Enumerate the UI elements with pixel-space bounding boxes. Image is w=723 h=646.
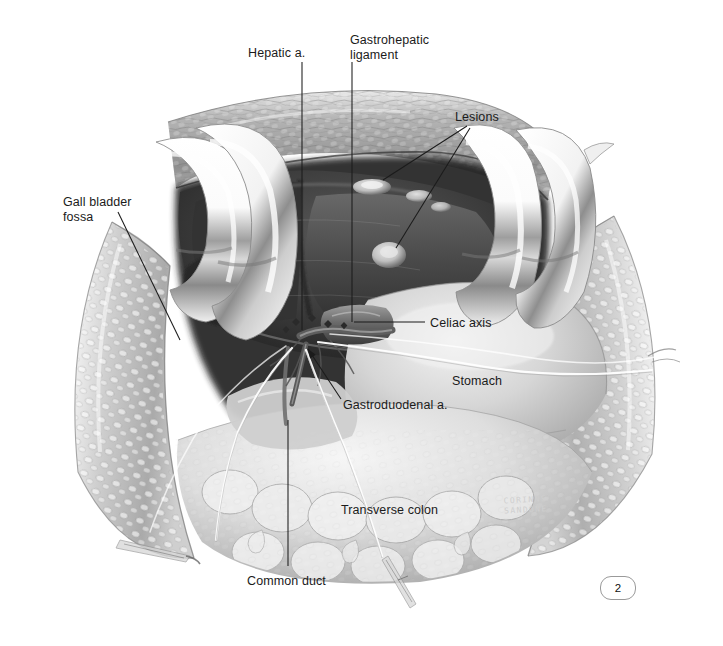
label-celiac-axis: Celiac axis: [430, 316, 492, 331]
illustration-canvas: [0, 0, 723, 646]
label-lesions: Lesions: [455, 110, 499, 125]
label-gall-bladder-fossa: Gall bladder fossa: [63, 195, 132, 224]
surgical-illustration-figure: Hepatic a. Gastrohepatic ligament Lesion…: [0, 0, 723, 646]
label-stomach: Stomach: [452, 374, 502, 389]
label-transverse-colon: Transverse colon: [341, 503, 438, 518]
label-gastroduodenal-artery: Gastroduodenal a.: [343, 398, 448, 413]
artist-signature: CORINNE SANDONE: [503, 492, 598, 523]
page-number-badge: 2: [600, 576, 636, 600]
label-hepatic-artery: Hepatic a.: [248, 46, 305, 61]
label-gastrohepatic-ligament: Gastrohepatic ligament: [350, 33, 429, 62]
label-common-duct: Common duct: [247, 574, 326, 589]
